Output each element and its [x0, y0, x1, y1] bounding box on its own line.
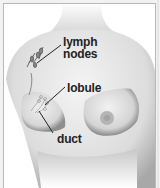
torso-illustration — [4, 4, 155, 188]
label-duct: duct — [57, 133, 82, 145]
label-lymph-line2: nodes — [63, 48, 97, 60]
outer-edge — [157, 0, 159, 188]
label-lymph-nodes: lymph nodes — [63, 36, 97, 60]
figure-frame: lymph nodes lobule duct — [3, 3, 156, 188]
label-lobule: lobule — [67, 82, 101, 94]
